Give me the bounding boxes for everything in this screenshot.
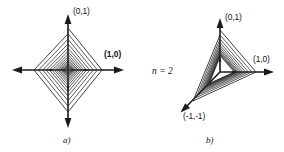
label-1-0-b: (1,0) [253,54,270,64]
tick-arrow-icon [67,86,70,91]
label-0-1-a: (0,1) [73,6,90,16]
label-0-1-b: (0,1) [225,12,242,22]
label-neg1-neg1-b: (-1,-1) [183,111,205,121]
label-1-0-a: (1,0) [104,49,121,59]
panel-b: (0,1) (1,0) (-1,-1) n = 2 b) [152,12,274,145]
diagram-svg: (0,1) (1,0) a) [0,0,284,152]
arrow-up-icon-b [217,18,224,28]
panel-a-axes [12,14,124,128]
tick-arrow-icon [84,69,89,71]
annotation-n-value: n = 2 [152,66,173,76]
arrow-down-icon-a [65,118,72,128]
arrow-right-icon-b [264,69,274,76]
panel-a: (0,1) (1,0) a) [12,6,124,145]
arrow-right-icon-a [114,67,124,74]
arrow-up-icon-a [65,14,72,24]
figure-container: (0,1) (1,0) a) [0,0,284,152]
caption-panel-b: b) [206,135,214,145]
tick-arrow-icon [47,69,52,71]
panel-b-spiral [193,30,256,101]
arrow-left-icon-a [12,67,22,74]
caption-panel-a: a) [63,135,71,145]
